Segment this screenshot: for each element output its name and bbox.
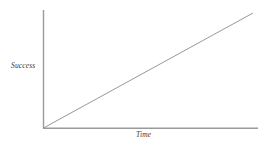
y-axis-label: Success: [11, 62, 35, 70]
chart-container: Success Time: [0, 0, 265, 149]
plot-area: [0, 0, 265, 149]
trend-line: [44, 13, 254, 128]
x-axis-label: Time: [136, 131, 151, 139]
